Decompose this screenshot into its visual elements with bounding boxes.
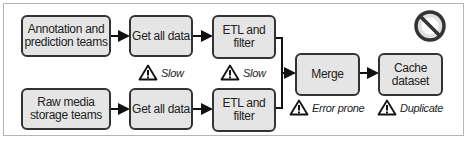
warning-label: Duplicate: [400, 102, 443, 114]
etl-filter-box-bottom: ETL and filter: [212, 88, 276, 132]
warning-merge: Error prone: [289, 99, 364, 116]
warning-etl: Slow: [220, 64, 266, 81]
warning-triangle-icon: [289, 99, 309, 116]
warning-cache: Duplicate: [377, 99, 443, 116]
raw-media-teams-box: Raw media storage teams: [21, 88, 111, 130]
get-all-data-box-bottom: Get all data: [129, 88, 193, 130]
get-all-data-box-top: Get all data: [129, 15, 193, 57]
cache-dataset-box: Cache dataset: [378, 53, 443, 96]
annotation-teams-box: Annotation and prediction teams: [21, 15, 111, 57]
warning-label: Slow: [243, 67, 266, 79]
warning-triangle-icon: [138, 64, 158, 81]
merge-box: Merge: [295, 53, 360, 96]
warning-triangle-icon: [377, 99, 397, 116]
no-entry-icon: [414, 10, 446, 42]
warning-label: Slow: [161, 67, 184, 79]
warning-get-all: Slow: [138, 64, 184, 81]
warning-label: Error prone: [312, 102, 364, 114]
etl-filter-box-top: ETL and filter: [212, 15, 276, 59]
warning-triangle-icon: [220, 64, 240, 81]
